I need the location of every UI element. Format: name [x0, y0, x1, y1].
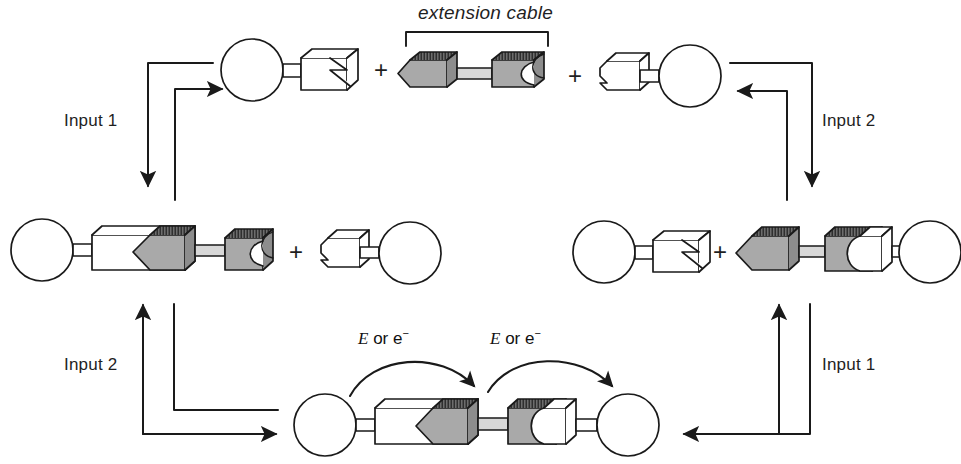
free-protein-socket-right-middle	[573, 221, 710, 283]
plus-sign-top-1: +	[374, 56, 388, 84]
input2-arrow-group-top	[730, 63, 812, 200]
component-extension-cable-top	[398, 52, 544, 87]
component-protein-socket-top	[221, 39, 358, 101]
energy-symbol-left: E	[358, 329, 368, 348]
input2-label-top-right: Input 2	[822, 111, 875, 131]
energy-arrow-left	[350, 362, 474, 396]
complex-right-middle	[736, 221, 961, 283]
plus-sign-middle-right: +	[713, 238, 727, 266]
input1-arrow-group-bottom	[684, 304, 810, 434]
schematic-svg	[0, 0, 961, 464]
energy-symbol-right: E	[490, 329, 500, 348]
free-protein-plug-left-middle	[321, 222, 441, 284]
input1-label-top-left: Input 1	[64, 111, 117, 131]
energy-arrow-right	[488, 361, 612, 392]
energy-rest-right: or e	[505, 329, 534, 348]
assembled-complex-bottom	[294, 394, 659, 456]
energy-rest-left: or e	[373, 329, 402, 348]
plus-sign-top-2: +	[568, 62, 582, 90]
energy-superscript-right: −	[534, 327, 540, 339]
input1-arrow-group-top	[148, 63, 222, 200]
energy-superscript-left: −	[402, 327, 408, 339]
complex-left-middle	[11, 219, 273, 281]
extension-cable-bracket	[406, 32, 548, 46]
input2-label-bottom-left: Input 2	[64, 355, 117, 375]
diagram-canvas: extension cable Input 1 Input 2 Input 2 …	[0, 0, 961, 464]
energy-label-right: E or e−	[490, 327, 541, 349]
input1-label-bottom-right: Input 1	[822, 355, 875, 375]
energy-label-left: E or e−	[358, 327, 409, 349]
extension-cable-label: extension cable	[418, 2, 553, 24]
input2-arrow-group-bottom	[143, 304, 278, 434]
component-protein-plug-top	[600, 45, 721, 107]
plus-sign-middle-left: +	[289, 238, 303, 266]
